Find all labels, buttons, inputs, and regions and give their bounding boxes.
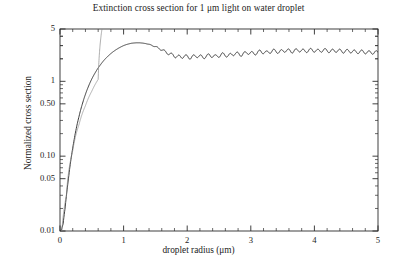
y-tick-label: 5 xyxy=(14,23,55,33)
y-tick-label: 0.01 xyxy=(14,225,55,235)
plot-frame xyxy=(60,29,378,231)
y-tick-label: 1 xyxy=(14,75,55,85)
figure-extinction-cross-section: Extinction cross section for 1 μm light … xyxy=(0,0,397,267)
curve-mie-extinction xyxy=(60,43,378,231)
x-tick-label: 4 xyxy=(294,235,334,245)
axis-ticks xyxy=(60,29,378,231)
x-tick-label: 1 xyxy=(104,235,144,245)
x-tick-label: 3 xyxy=(231,235,271,245)
curve-rayleigh-asymptote xyxy=(62,29,102,230)
y-tick-label: 0.50 xyxy=(14,98,55,108)
data-series-group xyxy=(60,29,378,230)
x-tick-label: 2 xyxy=(167,235,207,245)
axes-frame xyxy=(60,29,378,231)
plot-canvas xyxy=(0,0,397,267)
x-tick-label: 0 xyxy=(40,235,80,245)
y-tick-label: 0.05 xyxy=(14,173,55,183)
y-tick-label: 0.10 xyxy=(14,150,55,160)
x-tick-label: 5 xyxy=(358,235,397,245)
